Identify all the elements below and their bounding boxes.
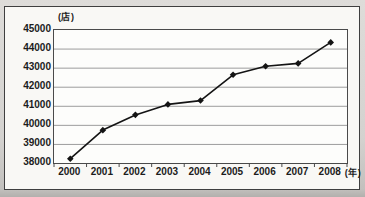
y-tick-label: 44000 (5, 42, 53, 54)
y-tick-label: 39000 (5, 137, 53, 149)
y-tick-label: 43000 (5, 61, 53, 73)
x-tick-label: 2003 (149, 166, 185, 178)
y-tick-label: 38000 (5, 156, 53, 168)
y-tick-label: 45000 (5, 23, 53, 35)
x-tick-label: 2002 (116, 166, 152, 178)
x-axis-unit-label: (年) (345, 167, 365, 179)
x-tick-label: 2004 (182, 166, 218, 178)
plot-area (53, 29, 348, 165)
y-tick-label: 40000 (5, 118, 53, 130)
data-point-marker (132, 111, 139, 118)
x-tick-label: 2007 (279, 166, 315, 178)
scanned-page-background: (店) 450004400043000420004100040000390003… (0, 0, 365, 197)
line-chart: (店) 450004400043000420004100040000390003… (4, 6, 360, 190)
y-tick-label: 42000 (5, 80, 53, 92)
x-tick-label: 2006 (247, 166, 283, 178)
y-tick-label: 41000 (5, 99, 53, 111)
x-tick-label: 2008 (312, 166, 348, 178)
x-tick-label: 2001 (84, 166, 120, 178)
x-tick-label: 2005 (214, 166, 250, 178)
line-series-canvas (54, 30, 347, 170)
y-axis-unit-label: (店) (58, 10, 75, 23)
x-tick-label: 2000 (51, 166, 87, 178)
